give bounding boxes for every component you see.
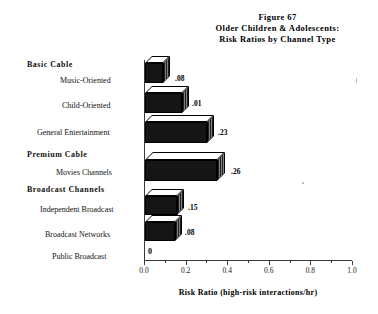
- x-tick-3: [269, 261, 270, 265]
- bar-value-independent-broadcast: .15: [188, 203, 197, 212]
- x-tick-5: [352, 261, 353, 265]
- scan-speck: [302, 182, 304, 184]
- x-minor-tick-3: [290, 261, 291, 263]
- x-tick-4: [310, 261, 311, 265]
- x-tick-label-5: 1.0: [339, 266, 365, 275]
- x-minor-tick-0: [165, 261, 166, 263]
- category-label-child-oriented: Child-Oriented: [62, 101, 110, 110]
- bar-chart-plot: Basic Cable Music-Oriented Child-Oriente…: [0, 0, 378, 314]
- x-tick-1: [186, 261, 187, 265]
- bar-front-face: [145, 160, 217, 181]
- bar-front-face: [145, 93, 182, 113]
- bar-side-face: [163, 56, 170, 83]
- category-label-broadcast-networks: Broadcast Networks: [45, 230, 110, 239]
- x-tick-label-3: 0.6: [256, 266, 282, 275]
- bar-value-public-broadcast: 0: [148, 247, 152, 256]
- category-label-movies-channels: Movies Channels: [56, 168, 112, 177]
- bar-value-music-oriented: .08: [175, 74, 184, 83]
- x-tick-label-0: 0.0: [131, 266, 157, 275]
- bar-front-face: [145, 63, 163, 83]
- group-label-premium-cable: Premium Cable: [27, 150, 87, 159]
- x-tick-label-4: 0.8: [297, 266, 323, 275]
- x-minor-tick-2: [248, 261, 249, 263]
- x-tick-label-2: 0.4: [214, 266, 240, 275]
- bar-top-face: [145, 115, 214, 122]
- category-label-independent-broadcast: Independent Broadcast: [40, 205, 114, 214]
- bar-value-movies-channels: .26: [231, 167, 240, 176]
- x-tick-0: [144, 261, 145, 265]
- bar-value-broadcast-networks: .08: [185, 228, 194, 237]
- bar-value-general-entertainment: .23: [218, 128, 227, 137]
- category-label-music-oriented: Music-Oriented: [60, 76, 111, 85]
- category-label-public-broadcast: Public Broadcast: [52, 252, 106, 261]
- category-label-general-entertainment: General Entertainment: [37, 128, 110, 137]
- bar-value-child-oriented: .01: [192, 99, 201, 108]
- bar-front-face: [145, 196, 177, 215]
- x-tick-2: [227, 261, 228, 265]
- scan-speck: [356, 78, 357, 83]
- figure-container: Figure 67 Older Children & Adolescents: …: [0, 0, 378, 314]
- x-tick-label-1: 0.2: [173, 266, 199, 275]
- group-label-basic-cable: Basic Cable: [27, 60, 73, 69]
- bar-top-face: [145, 152, 225, 160]
- x-axis-label: Risk Ratio (high-risk interactions/hr): [144, 288, 352, 297]
- bar-side-face: [207, 115, 214, 143]
- group-label-broadcast-channels: Broadcast Channels: [27, 185, 105, 194]
- bar-front-face: [145, 122, 207, 143]
- x-minor-tick-1: [206, 261, 207, 263]
- bar-side-face: [182, 86, 189, 113]
- x-minor-tick-4: [331, 261, 332, 263]
- bar-front-face: [145, 222, 175, 241]
